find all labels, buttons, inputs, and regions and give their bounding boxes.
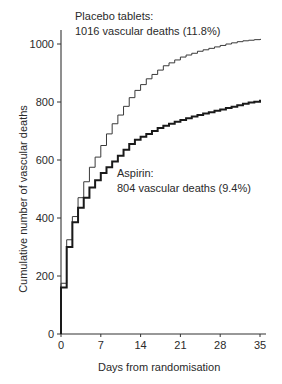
y-tick-label: 200	[36, 270, 54, 282]
x-tick-label: 7	[98, 339, 104, 351]
y-tick-label: 0	[48, 328, 54, 340]
y-tick-label: 400	[36, 212, 54, 224]
y-axis-label: Cumulative number of vascular deaths	[17, 89, 29, 309]
x-tick-label: 21	[174, 339, 186, 351]
x-axis-label: Days from randomisation	[98, 361, 220, 373]
y-tick-label: 800	[36, 96, 54, 108]
aspirin-annotation: Aspirin: 804 vascular deaths (9.4%)	[117, 166, 251, 196]
y-tick-label: 1000	[30, 38, 54, 50]
x-tick-label: 14	[134, 339, 146, 351]
aspirin-step-line	[61, 101, 261, 334]
x-tick-label: 28	[214, 339, 226, 351]
placebo-annotation-detail: 1016 vascular deaths (11.8%)	[75, 24, 220, 39]
aspirin-annotation-title: Aspirin:	[117, 166, 251, 181]
x-tick-label: 0	[58, 339, 64, 351]
placebo-annotation: Placebo tablets: 1016 vascular deaths (1…	[75, 9, 220, 39]
placebo-annotation-title: Placebo tablets:	[75, 9, 220, 24]
x-tick-label: 35	[254, 339, 266, 351]
aspirin-annotation-detail: 804 vascular deaths (9.4%)	[117, 181, 251, 196]
y-tick-label: 600	[36, 154, 54, 166]
